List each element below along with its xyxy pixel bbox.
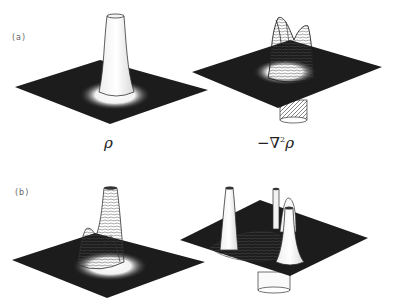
caption-rho: ρ	[104, 134, 113, 152]
surface-plots	[0, 0, 395, 306]
panel-label-a: (a)	[12, 33, 26, 42]
caption-neg-laplacian-prefix: −∇	[257, 134, 280, 152]
plot-b-rho	[12, 186, 205, 298]
caption-neg-laplacian: −∇2ρ	[257, 134, 294, 152]
panel-label-b: (b)	[15, 188, 29, 197]
plot-a-rho	[15, 14, 208, 124]
figure: (a) (b) ρ −∇2ρ	[0, 0, 395, 306]
plot-a-laplacian	[192, 17, 382, 123]
plot-b-laplacian	[180, 187, 368, 294]
caption-neg-laplacian-suffix: ρ	[285, 134, 294, 152]
